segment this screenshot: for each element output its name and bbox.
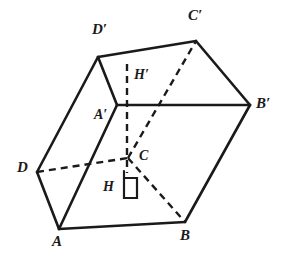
right-angle-mark-icon bbox=[124, 171, 137, 198]
edge-A-D bbox=[37, 172, 59, 229]
right-angle-at-H bbox=[124, 171, 137, 198]
label-b: B bbox=[180, 228, 190, 243]
edge-D-Dp bbox=[37, 57, 98, 172]
label-d-prime: D′ bbox=[92, 22, 107, 37]
geometry-figure: D′ C′ H′ B′ A′ D C H A B bbox=[0, 0, 286, 262]
label-a-prime: A′ bbox=[94, 108, 107, 122]
edge-Cp-Bp bbox=[196, 41, 250, 105]
figure-canvas bbox=[0, 0, 286, 262]
edge-A-B bbox=[59, 222, 185, 229]
label-b-prime: B′ bbox=[256, 96, 270, 111]
edge-B-Bp bbox=[185, 105, 250, 222]
label-h: H bbox=[103, 180, 114, 194]
label-h-prime: H′ bbox=[134, 68, 149, 82]
edge-D-C bbox=[37, 158, 128, 172]
edge-Dp-Cp bbox=[98, 41, 196, 57]
edge-Ap-Dp bbox=[98, 57, 117, 105]
label-a: A bbox=[52, 234, 62, 249]
dashed-edges bbox=[37, 41, 196, 222]
label-c-prime: C′ bbox=[188, 8, 202, 23]
edge-C-Cp bbox=[128, 41, 196, 158]
label-d: D bbox=[17, 160, 28, 175]
edge-A-Ap bbox=[59, 105, 117, 229]
label-c: C bbox=[139, 149, 148, 163]
